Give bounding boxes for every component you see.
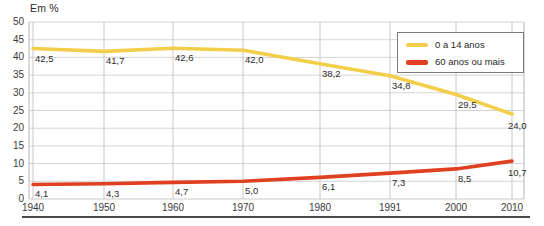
- legend-label-60-plus: 60 anos ou mais: [435, 57, 505, 67]
- data-label-0-14: 42,0: [245, 54, 264, 65]
- data-label-0-14: 29,5: [458, 99, 477, 110]
- data-label-60-plus: 6,1: [322, 181, 335, 192]
- data-label-0-14: 42,6: [175, 52, 194, 63]
- y-tick-label: 25: [0, 105, 24, 116]
- data-label-60-plus: 8,5: [458, 173, 471, 184]
- legend-label-0-14: 0 a 14 anos: [435, 40, 485, 50]
- x-tick-label: 1950: [82, 202, 126, 213]
- legend-swatch-icon-0-14: [406, 43, 428, 47]
- x-tick-label: 1991: [368, 202, 412, 213]
- y-tick-label: 20: [0, 122, 24, 133]
- data-label-60-plus: 5,0: [245, 185, 258, 196]
- data-label-0-14: 42,5: [35, 53, 54, 64]
- legend-item-60-plus: 60 anos ou mais: [406, 55, 505, 69]
- data-label-60-plus: 7,3: [392, 177, 405, 188]
- y-tick-label: 35: [0, 69, 24, 80]
- data-label-0-14: 24,0: [508, 120, 527, 131]
- y-tick-label: 5: [0, 175, 24, 186]
- data-label-0-14: 41,7: [106, 55, 125, 66]
- data-label-60-plus: 10,7: [508, 167, 527, 178]
- x-tick-label: 1980: [298, 202, 342, 213]
- x-tick-label: 1970: [221, 202, 265, 213]
- data-label-0-14: 38,2: [322, 68, 341, 79]
- legend: 0 a 14 anos 60 anos ou mais: [397, 32, 524, 73]
- legend-item-0-14: 0 a 14 anos: [406, 38, 485, 52]
- data-label-0-14: 34,8: [392, 80, 411, 91]
- data-label-60-plus: 4,1: [35, 188, 48, 199]
- x-tick-label: 2010: [490, 202, 534, 213]
- data-label-60-plus: 4,7: [175, 186, 188, 197]
- x-tick-label: 1940: [11, 202, 55, 213]
- y-tick-label: 40: [0, 51, 24, 62]
- y-tick-label: 45: [0, 34, 24, 45]
- x-tick-label: 2000: [434, 202, 478, 213]
- x-tick-label: 1960: [151, 202, 195, 213]
- legend-swatch-icon-60-plus: [406, 60, 428, 65]
- y-tick-label: 10: [0, 158, 24, 169]
- y-tick-label: 30: [0, 87, 24, 98]
- data-label-60-plus: 4,3: [106, 188, 119, 199]
- y-tick-label: 50: [0, 16, 24, 27]
- chart-container: Em % 05101520253035404550 19401950196019…: [0, 0, 544, 226]
- y-tick-label: 15: [0, 140, 24, 151]
- bottom-divider: [22, 216, 530, 218]
